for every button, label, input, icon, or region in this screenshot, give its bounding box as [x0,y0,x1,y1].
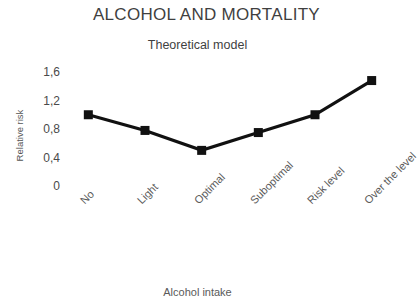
x-axis-tick-label: Suboptimal [248,159,295,206]
x-axis-tick-label: Light [135,181,160,206]
x-axis-title: Alcohol intake [0,286,395,298]
x-axis-tick-label: Risk level [305,164,347,206]
x-axis-tick-label: Optimal [191,171,226,206]
x-axis-tick-label: Over the level [361,150,417,206]
x-axis-tick-label: No [78,188,96,206]
